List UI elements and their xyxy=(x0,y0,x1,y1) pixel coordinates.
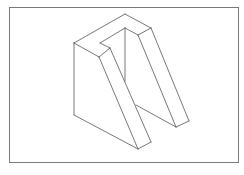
shape-edges xyxy=(74,14,189,149)
edge-right-leg-bottom-inner xyxy=(136,105,176,127)
edge-inner-slot-right xyxy=(125,28,138,35)
edge-left-leg-front-inner xyxy=(110,48,151,142)
edge-left-top-side xyxy=(74,43,99,57)
edge-right-leg-front-outer xyxy=(151,28,189,121)
edge-left-bottom xyxy=(74,115,138,149)
edge-right-leg-bottom-end xyxy=(176,121,189,127)
edge-top-right-outer xyxy=(125,14,151,28)
edge-right-top-front xyxy=(138,28,151,35)
edge-inner-slot-left xyxy=(100,43,110,48)
edge-left-leg-front-outer xyxy=(99,57,138,149)
edge-left-top-front xyxy=(99,48,110,57)
edge-inner-slot-back xyxy=(100,28,125,43)
edge-right-leg-front-inner xyxy=(138,35,176,127)
edge-top-left-outer xyxy=(74,14,125,43)
isometric-block-drawing xyxy=(0,0,244,175)
edge-left-leg-bottom-end xyxy=(138,142,151,149)
